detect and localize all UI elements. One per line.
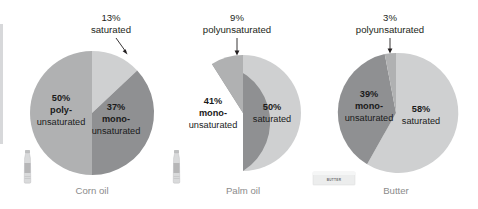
palm-mono-label-2: unsaturated bbox=[189, 120, 238, 130]
butter-callout-percent: 3% bbox=[383, 12, 397, 23]
butter-callout-arrow-head bbox=[388, 49, 393, 54]
pie-chart-figure: 13% saturated 50% poly- unsaturated 37% … bbox=[0, 0, 478, 209]
butter-sat-percent: 58% bbox=[412, 104, 430, 114]
pie-palm-oil: 9% polyunsaturated 41% mono- unsaturated… bbox=[173, 12, 301, 196]
butter-callout-label: polyunsaturated bbox=[356, 24, 424, 35]
palm-callout-percent: 9% bbox=[230, 12, 244, 23]
butter-caption: Butter bbox=[383, 185, 409, 196]
butter-mono-label-1: mono- bbox=[355, 101, 383, 111]
corn-mono-label-2: unsaturated bbox=[92, 126, 141, 136]
corn-callout-arrow-head bbox=[123, 49, 128, 54]
palm-mono-percent: 41% bbox=[204, 96, 222, 106]
corn-caption: Corn oil bbox=[75, 185, 108, 196]
butter-mono-percent: 39% bbox=[360, 89, 378, 99]
butter-mono-label-2: unsaturated bbox=[345, 113, 394, 123]
palm-sat-percent: 50% bbox=[263, 102, 281, 112]
palm-callout-label: polyunsaturated bbox=[203, 24, 271, 35]
palm-mono-label-1: mono- bbox=[199, 108, 227, 118]
pie-corn-oil: 13% saturated 50% poly- unsaturated 37% … bbox=[24, 12, 154, 196]
oil-bottle-icon bbox=[24, 150, 31, 183]
palm-caption: Palm oil bbox=[226, 185, 260, 196]
corn-callout-arrow-line bbox=[116, 38, 126, 52]
corn-poly-label-1: poly- bbox=[50, 105, 72, 115]
corn-callout-percent: 13% bbox=[101, 12, 121, 23]
butter-package-text: BUTTER bbox=[327, 178, 342, 182]
corn-callout-label: saturated bbox=[91, 24, 131, 35]
page-edge-artifact bbox=[0, 24, 3, 144]
butter-sat-label: saturated bbox=[402, 116, 440, 126]
oil-bottle-icon bbox=[173, 150, 180, 183]
corn-mono-percent: 37% bbox=[107, 102, 125, 112]
corn-mono-label-1: mono- bbox=[102, 114, 130, 124]
pie-charts-svg: 13% saturated 50% poly- unsaturated 37% … bbox=[0, 0, 478, 209]
pie-butter: 3% polyunsaturated 39% mono- unsaturated… bbox=[313, 12, 458, 196]
corn-poly-label-2: unsaturated bbox=[37, 117, 86, 127]
palm-callout-arrow-head bbox=[235, 51, 240, 56]
corn-poly-percent: 50% bbox=[52, 93, 70, 103]
palm-sat-label: saturated bbox=[253, 114, 291, 124]
butter-package-icon: BUTTER bbox=[313, 172, 355, 185]
